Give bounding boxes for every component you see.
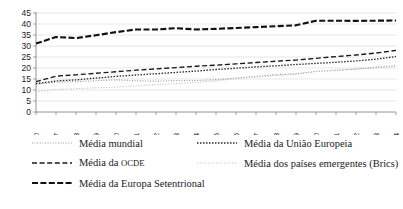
line-chart: 051015202530354045 199019971998199920002…: [0, 0, 403, 209]
legend-column-right: Média da União EuropeiaMédia dos países …: [197, 133, 403, 173]
legend-swatch-icon: [197, 138, 237, 148]
y-axis-labels: 051015202530354045: [22, 8, 32, 117]
y-tick-label: 5: [26, 96, 31, 106]
y-tick-label: 35: [22, 30, 32, 40]
legend-item-label: Média mundial: [79, 138, 143, 149]
series-line: [36, 50, 396, 81]
y-tick-label: 15: [22, 74, 32, 84]
y-tick-label: 10: [22, 85, 32, 95]
y-tick-label: 40: [22, 19, 32, 29]
legend-item[interactable]: Média mundial: [32, 133, 202, 153]
legend-item-label: Média dos países emergentes (Brics): [244, 158, 398, 169]
legend-swatch-icon: [32, 178, 72, 188]
series-line: [36, 66, 396, 85]
legend-item-label: Média da União Europeia: [244, 138, 352, 149]
y-axis-ticks: [33, 13, 36, 112]
legend-item[interactable]: Média dos países emergentes (Brics): [197, 153, 403, 173]
y-tick-label: 0: [26, 107, 31, 117]
legend-item[interactable]: Média da Europa Setentrional: [32, 173, 202, 193]
legend-item[interactable]: Média da União Europeia: [197, 133, 403, 153]
legend-item[interactable]: Média da OCDE: [32, 153, 202, 173]
y-tick-label: 45: [22, 8, 32, 18]
legend-item-label: Média da OCDE: [79, 157, 144, 169]
legend-swatch-icon: [32, 138, 72, 148]
chart-legend: Média mundialMédia da OCDEMédia da Europ…: [0, 133, 403, 209]
chart-svg: 051015202530354045 199019971998199920002…: [0, 0, 403, 135]
series-lines: [36, 20, 396, 91]
legend-item-label: Média da Europa Setentrional: [79, 178, 205, 189]
y-tick-label: 20: [22, 63, 32, 73]
legend-column-left: Média mundialMédia da OCDEMédia da Europ…: [32, 133, 202, 193]
legend-swatch-icon: [197, 158, 237, 168]
y-tick-label: 30: [22, 41, 32, 51]
legend-swatch-icon: [32, 158, 72, 168]
plot-area: 051015202530354045 199019971998199920002…: [0, 0, 403, 135]
x-axis-ticks: [36, 112, 396, 115]
y-tick-label: 25: [22, 52, 32, 62]
